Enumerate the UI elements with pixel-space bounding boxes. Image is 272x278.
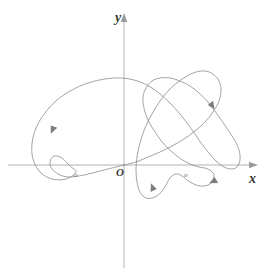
marker-label-left: o [74, 172, 78, 179]
x-axis-arrowhead [249, 162, 258, 168]
marker-label-right: o [184, 172, 188, 179]
graph-canvas [0, 0, 272, 278]
y-axis-label: y [115, 11, 121, 25]
axes-group [8, 13, 258, 268]
direction-arrow-lower-dip [148, 182, 157, 192]
direction-arrow-inner-loop [207, 101, 217, 112]
origin-label: O [116, 167, 124, 178]
y-axis-arrowhead [121, 13, 127, 22]
curve-group [32, 71, 240, 199]
parametric-curve [32, 71, 240, 199]
graph-figure: y x O o o [0, 0, 272, 278]
x-axis-label: x [249, 172, 256, 186]
direction-arrow-left-branch [48, 125, 58, 135]
